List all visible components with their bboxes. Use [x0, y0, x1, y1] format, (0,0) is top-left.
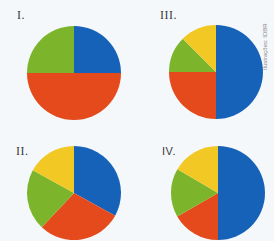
illustration-credit: Ilustrações: IDBR	[262, 23, 268, 70]
pie-chart-4	[0, 0, 274, 241]
pie-slice-blue	[218, 146, 265, 240]
